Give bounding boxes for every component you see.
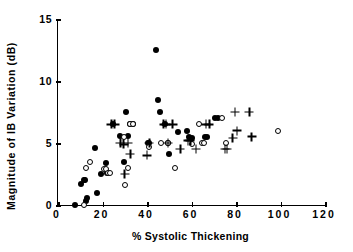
data-point-filled-circle xyxy=(153,47,159,53)
data-point-plus xyxy=(164,139,173,148)
data-point-filled-circle xyxy=(121,159,127,165)
data-point-plus xyxy=(120,170,129,179)
x-axis-tick xyxy=(325,202,327,207)
y-axis-tick-label: 0 xyxy=(30,199,52,211)
x-axis-tick xyxy=(236,202,238,207)
data-point-open-circle xyxy=(201,140,207,146)
x-axis-tick xyxy=(192,202,194,207)
data-point-open-circle xyxy=(81,202,87,208)
x-axis-tick xyxy=(281,202,283,207)
data-point-filled-circle xyxy=(155,97,161,103)
data-point-plus xyxy=(168,120,177,129)
data-point-filled-circle xyxy=(123,109,129,115)
x-axis-tick-label: 0 xyxy=(53,208,61,220)
y-axis-tick-label: 10 xyxy=(30,75,52,87)
y-axis-tick-label: 15 xyxy=(30,13,52,25)
data-point-plus xyxy=(176,145,185,154)
x-axis-tick-label: 60 xyxy=(183,208,199,220)
y-axis-tick xyxy=(56,81,61,83)
data-point-filled-circle xyxy=(94,190,100,196)
data-point-filled-circle xyxy=(175,129,181,135)
data-point-open-circle xyxy=(87,159,93,165)
data-point-plus xyxy=(245,108,254,117)
y-axis-label: Magnitude of IB Variation (dB) xyxy=(0,0,22,252)
data-point-plus xyxy=(223,145,232,154)
data-point-plus xyxy=(186,136,195,145)
data-point-filled-circle xyxy=(103,160,109,166)
data-point-plus xyxy=(247,132,256,141)
data-point-filled-circle xyxy=(157,109,163,115)
data-point-open-circle xyxy=(107,170,113,176)
scatter-plot-figure: Magnitude of IB Variation (dB) 020406080… xyxy=(0,0,353,252)
data-point-open-circle xyxy=(83,165,89,171)
data-point-open-circle xyxy=(122,182,128,188)
data-point-open-circle xyxy=(275,128,281,134)
data-layer xyxy=(58,19,325,205)
x-axis-tick-label: 20 xyxy=(94,208,110,220)
data-point-plus xyxy=(145,139,154,148)
y-axis-tick xyxy=(56,205,61,207)
y-axis-tick xyxy=(56,19,61,21)
data-point-plus xyxy=(124,139,133,148)
data-point-filled-circle xyxy=(84,195,90,201)
data-point-open-circle xyxy=(172,165,178,171)
data-point-plus xyxy=(143,151,152,160)
data-point-filled-circle xyxy=(184,128,190,134)
data-point-filled-circle xyxy=(204,134,210,140)
x-axis-tick-label: 100 xyxy=(268,208,292,220)
x-axis-tick-label: 40 xyxy=(138,208,154,220)
x-axis-tick xyxy=(103,202,105,207)
data-point-open-circle xyxy=(130,121,136,127)
x-axis-tick-label: 80 xyxy=(227,208,243,220)
data-point-plus xyxy=(205,120,214,129)
data-point-plus xyxy=(230,108,239,117)
y-axis-tick-label: 5 xyxy=(30,137,52,149)
x-axis-tick xyxy=(147,202,149,207)
data-point-plus xyxy=(233,126,242,135)
x-axis-tick-label: 120 xyxy=(312,208,336,220)
data-point-plus xyxy=(126,150,135,159)
data-point-filled-circle xyxy=(72,202,78,208)
data-point-filled-circle xyxy=(166,151,172,157)
data-point-plus xyxy=(110,120,119,129)
y-axis-tick xyxy=(56,143,61,145)
x-axis-label: % Systolic Thickening xyxy=(57,230,324,242)
data-point-open-circle xyxy=(219,115,225,121)
data-point-filled-circle xyxy=(92,145,98,151)
data-point-filled-circle xyxy=(82,177,88,183)
data-point-plus xyxy=(191,145,200,154)
plot-area xyxy=(57,19,325,206)
